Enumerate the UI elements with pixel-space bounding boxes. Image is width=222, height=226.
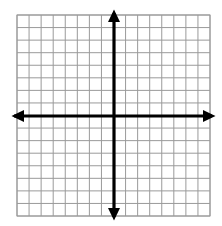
figure-background xyxy=(0,0,222,226)
coordinate-grid-figure xyxy=(0,0,222,226)
coordinate-plane-svg xyxy=(0,0,222,226)
